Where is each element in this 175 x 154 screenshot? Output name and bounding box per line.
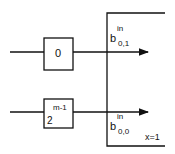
output-b00-subscript: 0,0 [118, 128, 129, 136]
output-b00-superscript: in [117, 113, 123, 121]
diagram-canvas [0, 0, 175, 154]
output-b01-subscript: 0,1 [118, 40, 129, 48]
output-b01-base: b [110, 33, 116, 44]
output-b00-base: b [110, 121, 116, 132]
region-label: x=1 [145, 133, 160, 142]
output-b01-superscript: in [117, 25, 123, 33]
bottom-block-base: 2 [47, 116, 53, 126]
bottom-block-exponent: m-1 [53, 104, 67, 112]
top-block-label: 0 [55, 48, 61, 59]
